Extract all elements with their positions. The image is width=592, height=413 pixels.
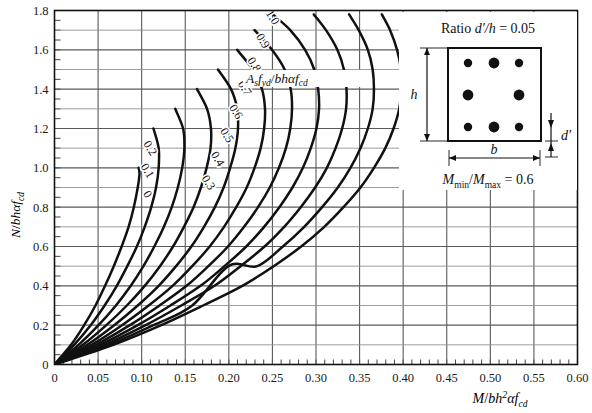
moment-sub-b: max <box>485 180 502 190</box>
x-label-sub: cd <box>518 399 527 409</box>
rebar-dot <box>515 123 523 131</box>
y-label-bh: bh <box>8 212 23 226</box>
x-tick-label: 0 <box>51 371 57 385</box>
y-tick-label: 1.6 <box>33 43 49 57</box>
y-tick-label: 0.8 <box>33 201 49 215</box>
x-tick-label: 0.10 <box>131 371 153 385</box>
y-tick-label: 1.8 <box>33 4 49 18</box>
rebar-dot <box>489 122 500 133</box>
y-tick-label: 0.2 <box>33 319 49 333</box>
moment-equals: = 0.6 <box>504 172 533 187</box>
formula-f-sub: yd <box>261 78 271 88</box>
y-tick-label: 0 <box>42 358 48 372</box>
y-tick-label: 1.4 <box>33 83 49 97</box>
x-tick-label: 0.45 <box>436 371 458 385</box>
x-tick-label: 0.15 <box>174 371 196 385</box>
dim-b-label: b <box>491 142 498 157</box>
x-tick-label: 0.55 <box>523 371 545 385</box>
rebar-dot <box>515 59 523 67</box>
x-tick-label: 0.25 <box>261 371 283 385</box>
inset-ratio-label: Ratio d′/h = 0.05 <box>441 21 535 36</box>
ratio-equals: = 0.05 <box>499 21 535 36</box>
x-tick-label: 0.30 <box>305 371 327 385</box>
y-tick-label: 1.0 <box>33 161 49 175</box>
ratio-symbol: d′/h <box>475 21 496 36</box>
dim-h-label: h <box>411 87 418 102</box>
rebar-dot <box>463 90 474 101</box>
rebar-dot <box>489 58 500 69</box>
cross-section-inset: Ratio d′/h = 0.05 <box>399 12 577 190</box>
series-formula-annotation: Asfyd/bhαfcd <box>243 70 361 88</box>
rebar-dot <box>464 59 472 67</box>
formula-fcd-sub: cd <box>299 78 308 88</box>
rebar-dot <box>464 123 472 131</box>
x-tick-label: 0.40 <box>392 371 414 385</box>
y-tick-label: 0.4 <box>33 279 49 293</box>
dim-dprime-label: d′ <box>561 128 572 143</box>
formula-bh: bh <box>274 71 288 86</box>
x-tick-label: 0.50 <box>479 371 501 385</box>
y-label-sub: cd <box>16 192 26 201</box>
interaction-diagram: 000.10.10.20.20.30.30.40.40.50.50.60.60.… <box>0 0 592 413</box>
x-tick-label: 0.60 <box>567 371 589 385</box>
y-tick-label: 0.6 <box>33 240 49 254</box>
moment-sub-a: min <box>454 180 469 190</box>
x-tick-label: 0.05 <box>87 371 109 385</box>
x-label-bh: bh <box>488 391 502 406</box>
ratio-prefix: Ratio <box>441 21 471 36</box>
chart-page: 000.10.10.20.20.30.30.40.40.50.50.60.60.… <box>0 0 592 413</box>
x-tick-label: 0.20 <box>218 371 240 385</box>
y-tick-label: 1.2 <box>33 122 49 136</box>
x-tick-label: 0.35 <box>349 371 371 385</box>
rebar-dot <box>514 90 525 101</box>
